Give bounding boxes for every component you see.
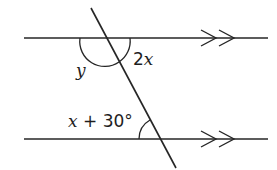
transversal-line [91,8,176,168]
angle-x-plus-30-arc [139,120,150,139]
angle-2x-label: 2x [133,49,154,69]
angle-y-arc [80,38,119,66]
angle-2x-coefficient: 2 [133,49,144,69]
angle-bottom-variable: x [68,111,78,131]
angle-y-label: y [75,60,86,80]
angle-2x-arc [119,38,130,62]
angle-bottom-expression: + 30° [78,111,133,131]
parallel-lines-diagram: y 2x x + 30° [0,0,277,170]
angle-2x-variable: x [144,49,154,69]
angle-x-plus-30-label: x + 30° [68,111,133,131]
